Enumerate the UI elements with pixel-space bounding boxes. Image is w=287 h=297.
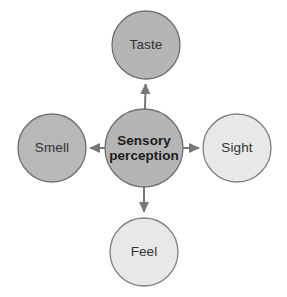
sensory-perception-diagram: Taste Smell Sight Feel Sensory perceptio… bbox=[0, 0, 287, 297]
arrow-to-taste bbox=[145, 84, 146, 109]
node-circle-taste[interactable] bbox=[112, 11, 180, 79]
node-circle-feel[interactable] bbox=[110, 218, 178, 286]
node-circle-smell[interactable] bbox=[18, 114, 86, 182]
node-circle-sensory-perception[interactable] bbox=[105, 109, 183, 187]
node-circle-sight[interactable] bbox=[203, 114, 271, 182]
diagram-graphics-layer bbox=[0, 0, 287, 297]
